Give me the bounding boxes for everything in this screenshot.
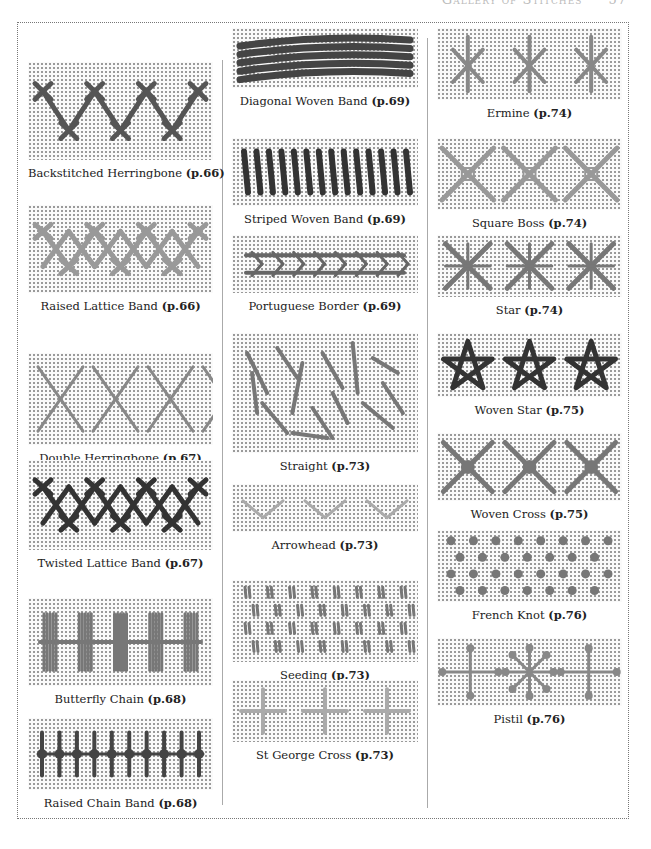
stitch-page-ref: (p.68) [158, 796, 197, 810]
page-number: 57 [608, 0, 627, 7]
stitch-caption: Star (p.74) [437, 303, 622, 317]
stitch-page-ref: (p.69) [367, 212, 406, 226]
stitch-page-ref: (p.75) [550, 507, 589, 521]
stitch-swatch-image [232, 680, 418, 742]
stitch-name: Square Boss [472, 216, 545, 230]
stitch-name: Raised Chain Band [44, 796, 155, 810]
stitch-page-ref: (p.66) [162, 299, 201, 313]
stitch-page-ref: (p.76) [548, 608, 587, 622]
stitch-sample-french-knot: French Knot (p.76) [437, 530, 622, 622]
stitch-page-ref: (p.74) [524, 303, 563, 317]
stitch-swatch-image [437, 138, 622, 210]
stitch-swatch-image [437, 235, 622, 297]
stitch-sample-herringbone-backstitched: Backstitched Herringbone (p.66) [28, 62, 213, 180]
stitch-swatch-image [437, 638, 622, 706]
stitch-swatch-image [232, 333, 418, 453]
header-title: Gallery of Stitches [442, 0, 583, 7]
stitch-sample-woven-cross: Woven Cross (p.75) [437, 433, 622, 521]
stitch-page-ref: (p.75) [545, 403, 584, 417]
stitch-sample-woven-star: Woven Star (p.75) [437, 333, 622, 417]
stitch-caption: Raised Chain Band (p.68) [28, 796, 213, 810]
stitch-page-ref: (p.74) [533, 106, 572, 120]
stitch-caption: Ermine (p.74) [437, 106, 622, 120]
stitch-swatch-image [28, 598, 213, 686]
stitch-name: French Knot [472, 608, 545, 622]
stitch-sample-striped-woven: Striped Woven Band (p.69) [232, 138, 418, 226]
stitch-sample-twisted-lattice: Twisted Lattice Band (p.67) [28, 460, 213, 570]
stitch-caption: Woven Cross (p.75) [437, 507, 622, 521]
stitch-page-ref: (p.73) [355, 748, 394, 762]
stitch-sample-arrowhead: Arrowhead (p.73) [232, 484, 418, 552]
stitch-page-ref: (p.73) [331, 459, 370, 473]
stitch-sample-st-george-cross: St George Cross (p.73) [232, 680, 418, 762]
stitch-page-ref: (p.67) [165, 556, 204, 570]
stitch-name: Portuguese Border [249, 299, 359, 313]
stitch-name: Straight [280, 459, 328, 473]
stitch-sample-seeding: Seeding (p.73) [232, 580, 418, 682]
stitch-swatch-image [28, 205, 213, 293]
stitch-swatch-image [437, 433, 622, 501]
stitch-sample-raised-lattice: Raised Lattice Band (p.66) [28, 205, 213, 313]
column-divider [427, 38, 428, 808]
stitch-swatch-image [28, 353, 213, 445]
stitch-name: St George Cross [256, 748, 351, 762]
stitch-name: Backstitched Herringbone [28, 166, 182, 180]
stitch-caption: French Knot (p.76) [437, 608, 622, 622]
stitch-caption: St George Cross (p.73) [232, 748, 418, 762]
stitch-swatch-image [28, 718, 213, 790]
stitch-page-ref: (p.69) [371, 94, 410, 108]
stitch-page-ref: (p.69) [362, 299, 401, 313]
stitch-swatch-image [232, 235, 418, 293]
stitch-caption: Woven Star (p.75) [437, 403, 622, 417]
stitch-swatch-image [232, 580, 418, 662]
stitch-sample-ermine: Ermine (p.74) [437, 28, 622, 120]
stitch-name: Striped Woven Band [244, 212, 363, 226]
stitch-caption: Square Boss (p.74) [437, 216, 622, 230]
stitch-name: Star [496, 303, 521, 317]
stitch-sample-butterfly-chain: Butterfly Chain (p.68) [28, 598, 213, 706]
stitch-swatch-image [232, 138, 418, 206]
stitch-page-ref: (p.74) [548, 216, 587, 230]
stitch-swatch-image [28, 62, 213, 160]
stitch-swatch-image [437, 28, 622, 100]
stitch-sample-pistil: Pistil (p.76) [437, 638, 622, 726]
stitch-name: Woven Cross [471, 507, 546, 521]
stitch-caption: Straight (p.73) [232, 459, 418, 473]
running-header: Gallery of Stitches57 [442, 0, 627, 7]
stitch-name: Ermine [487, 106, 530, 120]
stitch-caption: Striped Woven Band (p.69) [232, 212, 418, 226]
stitch-sample-double-herringbone: Double Herringbone (p.67) [28, 353, 213, 465]
stitch-swatch-image [232, 484, 418, 532]
stitch-page-ref: (p.66) [186, 166, 225, 180]
stitch-caption: Arrowhead (p.73) [232, 538, 418, 552]
stitch-sample-raised-chain: Raised Chain Band (p.68) [28, 718, 213, 810]
stitch-swatch-image [437, 333, 622, 397]
stitch-page-ref: (p.76) [527, 712, 566, 726]
stitch-name: Raised Lattice Band [40, 299, 158, 313]
stitch-name: Pistil [494, 712, 523, 726]
stitch-caption: Raised Lattice Band (p.66) [28, 299, 213, 313]
stitch-page-ref: (p.68) [148, 692, 187, 706]
stitch-sample-diagonal-woven: Diagonal Woven Band (p.69) [232, 28, 418, 108]
stitch-caption: Backstitched Herringbone (p.66) [28, 166, 213, 180]
stitch-name: Arrowhead [271, 538, 336, 552]
stitch-caption: Diagonal Woven Band (p.69) [232, 94, 418, 108]
stitch-sample-straight: Straight (p.73) [232, 333, 418, 473]
stitch-name: Twisted Lattice Band [37, 556, 161, 570]
stitch-name: Woven Star [475, 403, 542, 417]
stitch-sample-portuguese-border: Portuguese Border (p.69) [232, 235, 418, 313]
stitch-caption: Twisted Lattice Band (p.67) [28, 556, 213, 570]
stitch-sample-square-boss: Square Boss (p.74) [437, 138, 622, 230]
stitch-caption: Pistil (p.76) [437, 712, 622, 726]
stitch-name: Butterfly Chain [55, 692, 144, 706]
stitch-swatch-image [437, 530, 622, 602]
stitch-swatch-image [232, 28, 418, 88]
stitch-page-ref: (p.73) [340, 538, 379, 552]
stitch-sample-star: Star (p.74) [437, 235, 622, 317]
stitch-name: Diagonal Woven Band [240, 94, 368, 108]
stitch-caption: Butterfly Chain (p.68) [28, 692, 213, 706]
stitch-swatch-image [28, 460, 213, 550]
stitch-caption: Portuguese Border (p.69) [232, 299, 418, 313]
